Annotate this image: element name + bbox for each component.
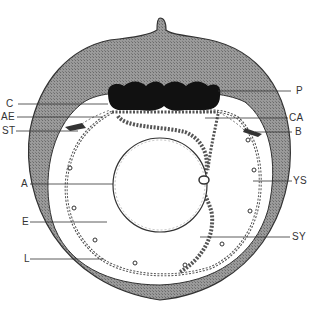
label-L: L <box>24 254 30 264</box>
label-AE: AE <box>1 112 15 122</box>
label-A: A <box>21 179 28 189</box>
label-B: B <box>295 127 302 137</box>
embryo[interactable] <box>199 176 209 184</box>
amnion[interactable] <box>113 138 207 232</box>
label-SY: SY <box>292 232 306 242</box>
embryo-cross-section-diagram <box>0 0 319 315</box>
label-ST: ST <box>2 126 15 136</box>
label-P: P <box>296 86 303 96</box>
label-E: E <box>22 217 29 227</box>
label-YS: YS <box>293 176 307 186</box>
label-C: C <box>6 99 14 109</box>
label-CA: CA <box>289 113 304 123</box>
